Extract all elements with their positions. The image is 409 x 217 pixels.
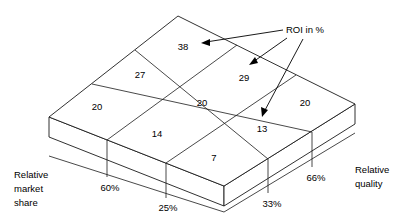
cell-value-38: 38 bbox=[178, 41, 189, 52]
tick-label-60: 60% bbox=[100, 182, 120, 193]
cell-value-13: 13 bbox=[257, 123, 268, 134]
axis-label-right-line1: Relative bbox=[355, 164, 389, 175]
cell-value-27: 27 bbox=[135, 69, 146, 80]
tick-label-25: 25% bbox=[158, 202, 178, 213]
cell-value-29: 29 bbox=[239, 72, 250, 83]
axis-label-left-line1: Relative bbox=[14, 169, 48, 180]
axis-label-left-line2: market bbox=[14, 183, 43, 194]
diagram-canvas: 38 27 29 20 20 20 14 7 13 ROI in % 60% 2… bbox=[0, 0, 409, 217]
roi-annotation-label: ROI in % bbox=[286, 24, 325, 35]
axis-label-right-line2: quality bbox=[355, 178, 383, 189]
cell-value-14: 14 bbox=[152, 128, 163, 139]
cell-value-7: 7 bbox=[211, 152, 216, 163]
tick-label-66: 66% bbox=[306, 172, 326, 183]
cell-value-20-left: 20 bbox=[92, 101, 103, 112]
axis-label-left-line3: share bbox=[14, 197, 38, 208]
cell-value-20-center: 20 bbox=[197, 97, 208, 108]
isometric-roi-matrix: 38 27 29 20 20 20 14 7 13 ROI in % 60% 2… bbox=[0, 0, 409, 217]
tick-label-33: 33% bbox=[262, 198, 282, 209]
cell-value-20-right: 20 bbox=[300, 97, 311, 108]
roi-arrow-line-2 bbox=[253, 38, 287, 62]
